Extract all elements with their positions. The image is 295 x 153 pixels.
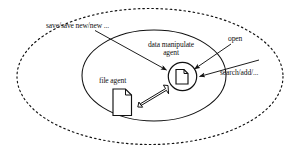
search-add-label: search/add/... [220, 69, 258, 77]
data-manipulate-agent-label: data manipulate agent [140, 41, 202, 57]
save-label: save/save new/new ... [46, 22, 109, 30]
diagram-canvas: save/save new/new ... data manipulate ag… [0, 0, 295, 153]
open-label: open [228, 35, 242, 43]
file-agent-document-icon [113, 89, 132, 116]
data-manipulate-agent-label-line2: agent [140, 49, 202, 57]
file-agent-label: file agent [99, 77, 126, 85]
agent-document-icon [176, 70, 188, 85]
file-agent-link-arrow [138, 85, 169, 107]
